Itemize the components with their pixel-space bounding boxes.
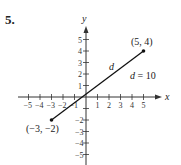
y-tick-label: −3 (75, 128, 84, 137)
y-tick-label: 2 (78, 70, 82, 79)
x-tick-label: −4 (35, 101, 44, 110)
point-b-dot (50, 118, 54, 122)
segment-label: d (109, 61, 115, 72)
x-tick-label: −5 (24, 101, 33, 110)
x-tick-label: 5 (142, 101, 146, 110)
y-tick-label: −2 (75, 116, 84, 125)
y-axis-arrow-icon (84, 26, 89, 33)
coordinate-plane: xy−5−4−3−2−11234554321−2−3−4−5(5, 4)(−3,… (0, 0, 181, 165)
x-axis-label: x (164, 91, 170, 102)
x-tick-label: 4 (130, 101, 134, 110)
y-tick-label: 4 (78, 47, 82, 56)
x-axis-arrow-icon (155, 95, 162, 100)
x-tick-label: 1 (96, 101, 100, 110)
point-b-label: (−3, −2) (26, 123, 59, 135)
y-tick-label: −5 (75, 151, 84, 160)
y-tick-label: −4 (75, 139, 84, 148)
y-tick-label: 1 (78, 82, 82, 91)
point-a-dot (142, 49, 146, 53)
point-a-label: (5, 4) (131, 36, 153, 48)
y-tick-label: 5 (78, 36, 82, 45)
y-axis-label: y (81, 13, 87, 24)
x-tick-label: 2 (107, 101, 111, 110)
distance-label: d = 10 (130, 70, 156, 81)
y-tick-label: 3 (78, 59, 82, 68)
x-tick-label: −2 (58, 101, 67, 110)
x-tick-label: −3 (47, 101, 56, 110)
x-tick-label: 3 (119, 101, 123, 110)
